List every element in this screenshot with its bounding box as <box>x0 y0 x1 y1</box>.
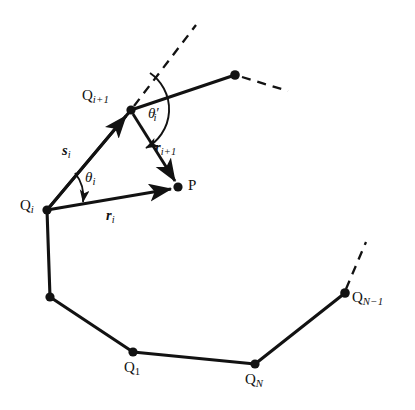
label-vector-s-i: si <box>62 143 71 160</box>
label-point-p-base: P <box>188 177 196 193</box>
label-q-i-plus-1-subscript: i+1 <box>93 93 109 105</box>
label-q-i-base: Q <box>20 197 31 213</box>
node-dot-qnext <box>230 70 240 80</box>
label-vector-r-i-plus-1: ri+1 <box>155 140 176 157</box>
label-vector-r-i-subscript: i <box>112 214 115 225</box>
edge-qi1-to-qnext <box>131 75 235 110</box>
label-q-i-plus-1-base: Q <box>82 87 93 103</box>
vector-arrows <box>47 114 175 210</box>
edge-vertexb-to-q1 <box>50 297 133 352</box>
node-dot-q1 <box>128 347 137 356</box>
label-q-1: Q1 <box>124 360 140 377</box>
label-theta-i: θi <box>85 170 96 187</box>
label-vector-r-i: ri <box>106 208 115 225</box>
figure-container: Qi Qi+1 Q1 QN QN−1 P si ri ri+1 θi θ′i <box>0 0 415 410</box>
vector-s-i <box>47 116 126 210</box>
node-dot-qn <box>250 359 259 368</box>
label-q-n-subscript: N <box>256 377 263 389</box>
edge-qn-to-qnm1 <box>255 293 345 364</box>
node-dot-qi1 <box>126 105 135 114</box>
label-vector-s-i-subscript: i <box>68 149 71 160</box>
label-q-n-base: Q <box>245 371 256 387</box>
label-q-n-minus-1-base: Q <box>352 289 363 305</box>
label-q-i-subscript: i <box>31 203 34 215</box>
label-q-n-minus-1: QN−1 <box>352 290 383 307</box>
edge-q1-to-qn <box>133 352 255 364</box>
label-q-1-subscript: 1 <box>135 365 140 377</box>
label-q-n: QN <box>245 372 263 389</box>
node-dot-p <box>173 182 182 191</box>
label-point-p: P <box>188 178 196 193</box>
node-dot-qi <box>42 205 51 214</box>
label-q-i: Qi <box>20 198 34 215</box>
label-theta-i-subscript: i <box>92 175 95 187</box>
node-dot-vertex-b <box>45 292 54 301</box>
dashed-line-from-qi1 <box>134 25 196 106</box>
dashed-line-from-qnm1 <box>346 242 366 289</box>
label-q-i-plus-1: Qi+1 <box>82 88 109 105</box>
label-theta-i-prime-subscript: i <box>154 111 157 123</box>
edge-qi-to-vertex-b <box>47 210 50 297</box>
label-q-1-base: Q <box>124 359 135 375</box>
node-dot-qnm1 <box>340 288 350 298</box>
label-q-n-minus-1-subscript: N−1 <box>363 295 384 307</box>
label-theta-i-prime: θ′i <box>148 106 157 123</box>
dashed-line-from-qnext <box>242 77 288 91</box>
geometry-diagram <box>0 0 415 410</box>
label-vector-r-i-plus-1-subscript: i+1 <box>161 146 177 157</box>
polygon-solid-edges <box>47 75 345 364</box>
